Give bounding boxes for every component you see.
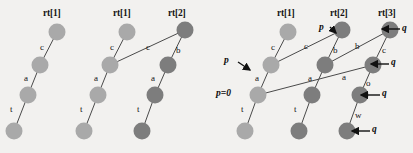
pointer-label: q (402, 23, 407, 33)
pointer-label: p (224, 55, 229, 65)
edge-label: a (308, 73, 312, 83)
edge-label: w (355, 110, 362, 120)
tree-node (49, 24, 66, 41)
edge-label: o (366, 78, 371, 88)
edge-label: c (146, 42, 150, 52)
tree-node (237, 123, 254, 140)
edge-label: c (271, 42, 275, 52)
tree-node (76, 123, 93, 140)
edge-label: c (304, 41, 308, 51)
edges-layer (0, 0, 413, 153)
tree-node (20, 87, 37, 104)
edge-label: b (355, 41, 360, 51)
tree-node (365, 57, 382, 74)
edge-label: a (342, 72, 346, 82)
edge-label: t (80, 104, 83, 114)
edge-label: t (10, 104, 13, 114)
pointer-label: q (372, 124, 377, 134)
root-label: rt[2] (330, 8, 347, 18)
pointer-label: q (382, 88, 387, 98)
edge-label: t (294, 104, 297, 114)
edge-label: c (382, 45, 386, 55)
tree-node (382, 22, 399, 39)
tree-node (280, 24, 297, 41)
tree-node (32, 57, 49, 74)
tree-node (263, 57, 280, 74)
root-label: rt[1] (43, 8, 60, 18)
edge-label: b (176, 45, 181, 55)
tree-node (317, 57, 334, 74)
node-circles (6, 22, 399, 140)
edge-label: a (151, 73, 155, 83)
root-label: rt[1] (277, 8, 294, 18)
tree-node (90, 87, 107, 104)
root-label: rt[3] (378, 8, 395, 18)
tree-node (291, 123, 308, 140)
pointer-label: q (391, 57, 396, 67)
tree-diagram-figure: catrt[1]catcbatrt[1]rt[2]catcbatbcaowrt[… (0, 0, 413, 153)
edge-label: t (241, 104, 244, 114)
tree-node (134, 123, 151, 140)
tree-node (250, 87, 267, 104)
edge-label: b (333, 45, 338, 55)
edge-label: a (94, 73, 98, 83)
pointer-arrow-icon (238, 62, 250, 70)
root-label: rt[2] (168, 8, 185, 18)
pointer-label: p (319, 22, 324, 32)
tree-node (334, 22, 351, 39)
tree-node (160, 57, 177, 74)
tree-node (102, 57, 119, 74)
pointer-label: p=0 (216, 88, 231, 98)
root-label: rt[1] (113, 8, 130, 18)
tree-node (304, 87, 321, 104)
edge-label: c (110, 42, 114, 52)
edge-label: a (24, 73, 28, 83)
edge-label: c (40, 42, 44, 52)
edge-label: a (255, 73, 259, 83)
tree-node (177, 22, 194, 39)
tree-node (147, 87, 164, 104)
edge-label: t (137, 104, 140, 114)
tree-node (6, 123, 23, 140)
tree-node (119, 24, 136, 41)
